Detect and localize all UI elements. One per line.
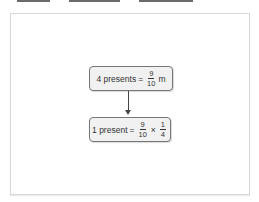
numerator: 1 [160, 121, 166, 131]
numerator: 9 [148, 70, 154, 80]
lhs-label: 4 presents [96, 74, 136, 84]
fraction: 9 10 [147, 70, 155, 88]
unit-label: m [158, 74, 165, 84]
down-arrow-icon [128, 91, 129, 111]
equals-sign: = [138, 74, 143, 84]
top-bar-3 [139, 0, 193, 2]
equation-box-4-presents: 4 presents = 9 10 m [89, 66, 173, 91]
denominator: 4 [161, 130, 165, 139]
top-bar-2 [69, 0, 120, 2]
fraction-1: 9 10 [138, 121, 146, 139]
denominator: 10 [138, 130, 146, 139]
top-bar-1 [17, 0, 50, 2]
equals-sign: = [130, 125, 135, 135]
numerator: 9 [140, 121, 146, 131]
multiply-sign: × [151, 125, 156, 135]
denominator: 10 [147, 79, 155, 88]
fraction-2: 1 4 [160, 121, 166, 139]
diagram-panel [10, 13, 250, 195]
lhs-label: 1 present [92, 125, 127, 135]
arrowhead-icon [125, 110, 131, 115]
equation-box-1-present: 1 present = 9 10 × 1 4 [89, 117, 171, 142]
